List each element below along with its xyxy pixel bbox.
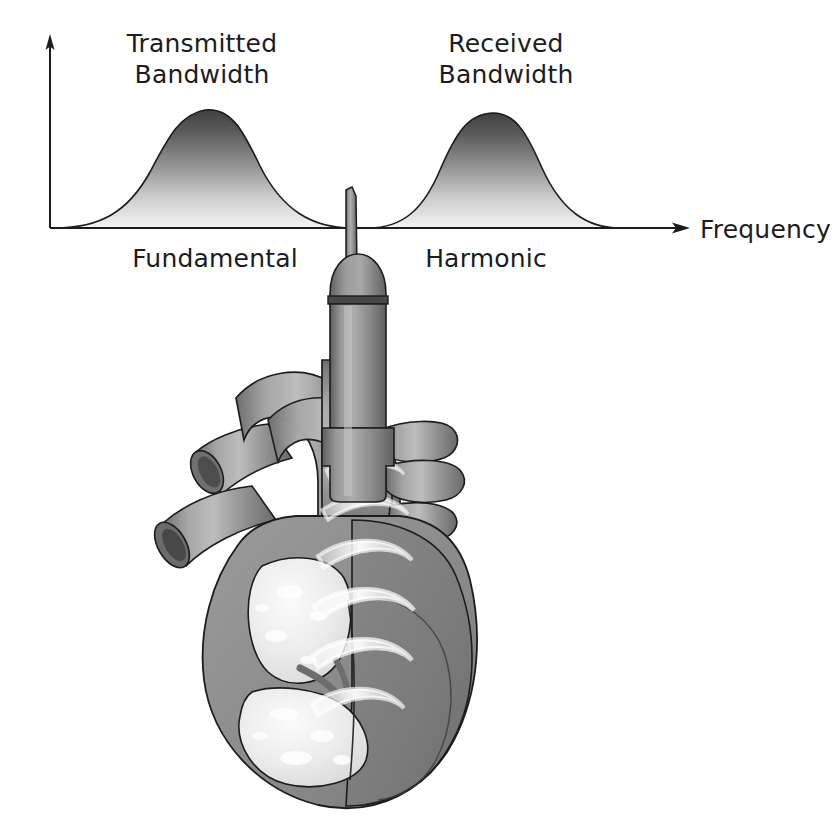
transmitted-band-fill [55,110,352,228]
transducer-nose-cone [330,254,386,302]
received-bandwidth-line1: Received [396,28,616,59]
illustration-svg [0,0,840,829]
transducer-collar-band [328,296,388,304]
transmitted-bandwidth-label: Transmitted Bandwidth [92,28,312,90]
fundamental-label: Fundamental [105,243,325,274]
received-bandwidth-curve [368,113,620,228]
transducer-grip-flare [322,428,394,502]
transducer-highlight [344,306,352,496]
ultrasound-transducer [322,187,394,502]
received-band-fill [368,113,620,228]
transducer-handle-body [330,304,386,428]
transmitted-bandwidth-line1: Transmitted [92,28,312,59]
y-axis [46,34,55,228]
figure-canvas: Transmitted Bandwidth Received Bandwidth… [0,0,840,829]
cutaway-heart [147,360,477,808]
transmitted-bandwidth-line2: Bandwidth [92,59,312,90]
received-bandwidth-label: Received Bandwidth [396,28,616,90]
frequency-axis-label: Frequency [700,214,840,245]
transmitted-bandwidth-curve [55,110,352,228]
harmonic-label: Harmonic [396,243,576,274]
received-bandwidth-line2: Bandwidth [396,59,616,90]
